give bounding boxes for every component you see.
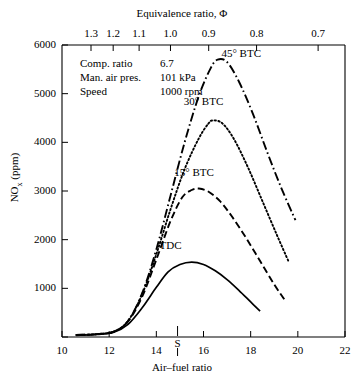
label-45: 45° BTC [206,48,276,59]
note-key: Comp. ratio [80,58,133,69]
bottom-tick-label: 20 [278,345,318,356]
top-tick-label: 0.7 [298,28,338,39]
top-tick-label: 1.0 [150,28,190,39]
label-tdc: TDC [135,240,205,251]
note-key: Man. air pres. [80,72,141,83]
y-axis-title: NOx (ppm) [4,143,23,213]
curve-15-btc [76,188,286,335]
top-tick-label: 0.9 [189,28,229,39]
left-tick-label: 6000 [12,39,56,50]
label-30: 30° BTC [169,96,239,107]
bottom-tick-label: 16 [184,345,224,356]
nox-vs-air-fuel-ratio-figure: S Equivalence ratio, Φ 1.31.21.11.00.90.… [0,0,364,380]
note-value: 6.7 [160,58,174,69]
top-axis-title: Equivalence ratio, Φ [0,8,364,19]
x-axis-title: Air–fuel ratio [0,362,364,373]
bottom-tick-label: 10 [42,345,82,356]
bottom-tick-label: 12 [89,345,129,356]
bottom-tick-label: 18 [231,345,271,356]
left-tick-label: 1000 [12,282,56,293]
label-15: 15° BTC [159,167,229,178]
left-tick-label: 5000 [12,88,56,99]
bottom-tick-label: 22 [325,345,364,356]
note-value: 101 kPa [160,72,196,83]
top-tick-label: 0.8 [237,28,277,39]
note-key: Speed [80,86,107,97]
left-tick-label: 2000 [12,234,56,245]
curve-tdc [76,262,260,335]
bottom-tick-label: 14 [136,345,176,356]
